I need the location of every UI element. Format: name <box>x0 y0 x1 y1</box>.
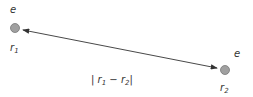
distance-diagram: e r1 e r2 | r1 − r2| <box>0 0 253 97</box>
particle-1 <box>11 24 20 33</box>
position-label-1: r1 <box>10 42 19 55</box>
charge-label-1: e <box>10 4 16 15</box>
position-label-2: r2 <box>220 82 229 95</box>
distance-label: | r1 − r2| <box>91 74 133 87</box>
particle-2 <box>221 66 230 75</box>
distance-arrow <box>23 30 217 68</box>
charge-label-2: e <box>234 48 240 59</box>
